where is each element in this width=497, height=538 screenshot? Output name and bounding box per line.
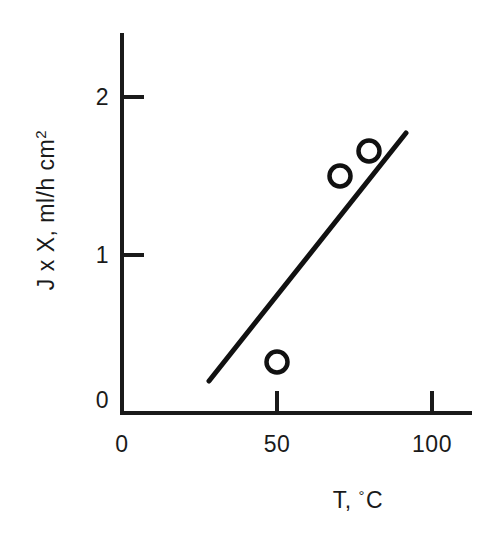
y-tick-label-0: 0 [96, 387, 109, 414]
trend-line [209, 133, 406, 381]
data-point-marker [359, 141, 380, 162]
figure-panel: 2 1 0 0 50 100 J x X, ml/h cm2 T, °C [0, 0, 497, 538]
y-tick-label-2: 2 [96, 84, 109, 111]
x-tick-label-100: 100 [412, 431, 452, 458]
y-axis-title: J x X, ml/h cm2 [32, 130, 61, 290]
x-tick-label-50: 50 [264, 431, 291, 458]
y-axis-title-base: J x X, ml/h cm [33, 139, 59, 290]
x-tick-label-0: 0 [115, 431, 128, 458]
x-axis-title-prefix: T, [333, 487, 359, 513]
data-point-marker [267, 352, 288, 373]
degree-icon: ° [359, 487, 366, 504]
y-axis-title-superscript: 2 [32, 130, 49, 139]
data-point-marker [330, 166, 351, 187]
x-axis-title: T, °C [333, 487, 383, 514]
y-tick-label-1: 1 [96, 242, 109, 269]
x-axis-title-unit: C [366, 487, 383, 513]
